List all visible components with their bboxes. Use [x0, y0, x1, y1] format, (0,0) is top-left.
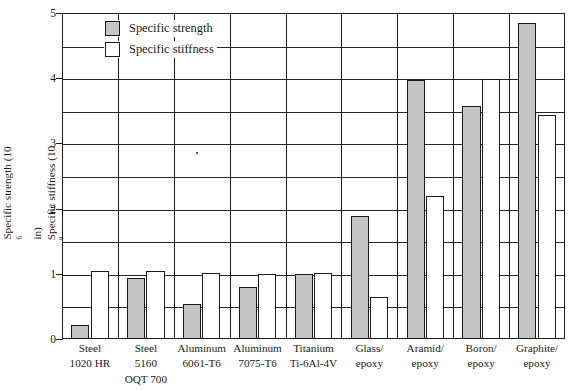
bar-specific-strength: [407, 80, 425, 339]
x-axis-label: Steel5160OQT 700: [118, 341, 174, 387]
bar-specific-strength: [295, 274, 313, 339]
x-axis-label-line: 6061-T6: [174, 356, 230, 371]
bar-specific-strength: [183, 304, 201, 339]
legend-swatch-specific-stiffness: [105, 42, 120, 57]
group-divider: [174, 13, 175, 339]
bar-specific-stiffness: [370, 297, 388, 339]
x-axis-label-line: Aluminum: [230, 341, 286, 356]
bar-specific-stiffness: [426, 196, 444, 339]
bars-layer: [62, 13, 565, 339]
bar-specific-stiffness: [538, 115, 556, 339]
bar-specific-strength: [239, 287, 257, 339]
y-tick-label: 2: [30, 203, 56, 215]
bar-specific-stiffness: [146, 271, 164, 339]
y-axis-title-line-1: Specific strength (106 in): [0, 146, 44, 239]
group-divider: [397, 13, 398, 339]
bar-chart: Specific strength (106 in) Specific stif…: [0, 0, 575, 391]
x-axis-label: Aramid/epoxy: [397, 341, 453, 372]
bar-specific-strength: [71, 325, 89, 339]
group-divider: [509, 13, 510, 339]
x-axis-label-line: Graphite/: [509, 341, 565, 356]
x-axis-label-line: Titanium: [286, 341, 342, 356]
group-divider: [230, 13, 231, 339]
legend-swatch-specific-strength: [105, 21, 120, 36]
bar-specific-stiffness: [482, 79, 500, 339]
group-divider: [118, 13, 119, 339]
y-tick-mark: [56, 339, 63, 340]
group-divider: [286, 13, 287, 339]
image-speck-artifact: [196, 152, 198, 154]
x-axis-label-line: Ti-6Al-4V: [286, 356, 342, 371]
x-axis-label-line: epoxy: [341, 356, 397, 371]
x-axis-label-line: 7075-T6: [230, 356, 286, 371]
legend-label-specific-stiffness: Specific stiffness: [129, 42, 214, 57]
x-axis-label: Steel1020 HR: [62, 341, 118, 372]
y-tick-label: 5: [30, 7, 56, 19]
y-axis-title: Specific strength (106 in) Specific stif…: [27, 63, 61, 323]
legend-label-specific-strength: Specific strength: [129, 21, 213, 36]
y-tick-label: 0: [30, 333, 56, 345]
x-axis-label: Boron/epoxy: [453, 341, 509, 372]
y-tick-label: 4: [30, 72, 56, 84]
legend-item-specific-stiffness: Specific stiffness: [104, 41, 217, 58]
x-axis-label-line: Steel: [62, 341, 118, 356]
bar-specific-stiffness: [314, 273, 332, 339]
y-tick-label: 3: [30, 137, 56, 149]
x-axis-label: TitaniumTi-6Al-4V: [286, 341, 342, 372]
x-axis-label: Graphite/epoxy: [509, 341, 565, 372]
bar-specific-strength: [462, 106, 480, 339]
x-axis-label-line: Steel: [118, 341, 174, 356]
x-axis-label-line: Glass/: [341, 341, 397, 356]
x-axis-label-line: OQT 700: [118, 372, 174, 387]
x-axis-label: Glass/epoxy: [341, 341, 397, 372]
bar-specific-stiffness: [91, 271, 109, 339]
bar-specific-strength: [351, 216, 369, 339]
x-axis-label-line: epoxy: [509, 356, 565, 371]
x-axis-label-line: 5160: [118, 356, 174, 371]
x-axis-label-line: Aluminum: [174, 341, 230, 356]
bar-specific-stiffness: [202, 273, 220, 340]
group-divider: [453, 13, 454, 339]
x-axis-label-line: epoxy: [453, 356, 509, 371]
x-axis-label: Aluminum7075-T6: [230, 341, 286, 372]
x-axis-label-line: Aramid/: [397, 341, 453, 356]
bar-specific-strength: [518, 23, 536, 339]
y-tick-label: 1: [30, 268, 56, 280]
x-axis-label-line: epoxy: [397, 356, 453, 371]
x-axis-label: Aluminum6061-T6: [174, 341, 230, 372]
chart-legend: Specific strength Specific stiffness: [104, 20, 217, 58]
x-axis-label-line: Boron/: [453, 341, 509, 356]
legend-item-specific-strength: Specific strength: [104, 20, 217, 37]
bar-specific-strength: [127, 278, 145, 339]
bar-specific-stiffness: [258, 274, 276, 339]
group-divider: [341, 13, 342, 339]
x-axis-label-line: 1020 HR: [62, 356, 118, 371]
y-axis-exponent-strength: 6: [15, 236, 24, 240]
x-axis-labels: Steel1020 HRSteel5160OQT 700Aluminum6061…: [62, 341, 565, 391]
